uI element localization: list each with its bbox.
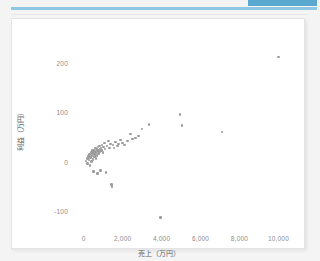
scatter-point [179, 113, 182, 116]
y-tick-label: 0 [24, 159, 68, 166]
scatter-point [137, 135, 140, 138]
scatter-point [141, 128, 144, 131]
scatter-point [105, 171, 108, 174]
scatter-point [181, 124, 184, 127]
scatter-point [134, 137, 137, 140]
scatter-point [107, 140, 110, 143]
scatter-point [119, 139, 122, 142]
scatter-point [99, 169, 102, 172]
x-tick-label: 0 [64, 235, 104, 242]
scatter-point [95, 157, 98, 160]
header-hairline-divider [11, 14, 308, 15]
scatter-point [117, 143, 120, 146]
chart-card: -100010020002,0004,0006,0008,00010,000 売… [11, 18, 305, 249]
scatter-point [148, 123, 151, 126]
scatter-point [92, 170, 95, 173]
y-tick-label: 200 [24, 60, 68, 67]
top-right-widget-chip[interactable] [248, 0, 317, 6]
y-tick-label: -100 [24, 208, 68, 215]
scatter-point [112, 144, 115, 147]
page-root: -100010020002,0004,0006,0008,00010,000 売… [0, 0, 320, 261]
scatter-point [92, 158, 95, 161]
x-tick-label: 8,000 [219, 235, 259, 242]
scatter-point [126, 140, 129, 143]
scatter-point [123, 144, 126, 147]
x-tick-label: 6,000 [181, 235, 221, 242]
x-tick-label: 10,000 [258, 235, 298, 242]
scatter-point [102, 151, 105, 154]
scatter-point [221, 131, 224, 134]
top-strip [0, 0, 320, 17]
scatter-point [96, 172, 99, 175]
scatter-point [277, 56, 280, 59]
y-tick-label: 100 [24, 109, 68, 116]
scatter-point [159, 216, 162, 219]
scatter-plot-area[interactable]: -100010020002,0004,0006,0008,00010,000 [12, 19, 306, 250]
card-bottom-edge [11, 249, 308, 250]
scatter-point [89, 164, 92, 167]
scatter-point [129, 133, 132, 136]
x-tick-label: 2,000 [103, 235, 143, 242]
scatter-point [104, 148, 107, 151]
scatter-point [103, 142, 106, 145]
scatter-point [113, 147, 116, 150]
accent-divider-bar [11, 7, 317, 10]
x-tick-label: 4,000 [142, 235, 182, 242]
scatter-point [111, 185, 114, 188]
scatter-point [108, 147, 111, 150]
y-axis-title: 利益（万円） [15, 90, 25, 170]
